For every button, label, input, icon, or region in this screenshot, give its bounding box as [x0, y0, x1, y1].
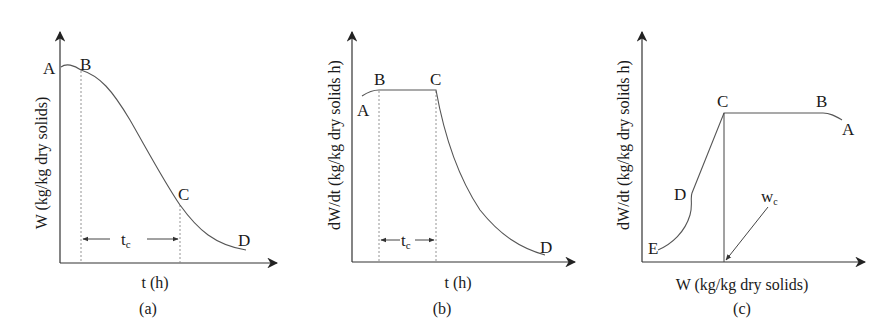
point-label-a-b: A [357, 101, 370, 120]
point-label-d-a: D [238, 231, 250, 250]
x-axis-label-b: t (h) [444, 274, 471, 292]
point-label-a-c: A [842, 120, 855, 139]
panel-b: tc A B C D dW/dt (kg/kg dry solids h) t … [326, 32, 575, 318]
y-axis-label-a: W (kg/kg dry solids) [33, 97, 51, 230]
caption-c: (c) [733, 300, 751, 318]
point-label-b-c: B [816, 92, 827, 111]
panel-c: wc C B A D E dW/dt (kg/kg dry solids h) … [615, 32, 865, 318]
moisture-curve-a [61, 65, 246, 250]
tc-label-a: tc [121, 230, 131, 250]
drying-curves-figure: tc A B C D W (kg/kg dry solids) t (h) (a… [0, 0, 894, 335]
wc-label-c: wc [761, 187, 778, 207]
x-axis-label-a: t (h) [141, 274, 168, 292]
point-label-c-b: C [430, 70, 441, 89]
point-label-a-a: A [43, 59, 56, 78]
point-label-b-a: B [80, 55, 91, 74]
y-axis-label-c: dW/dt (kg/kg dry solids h) [615, 60, 633, 230]
panel-a: tc A B C D W (kg/kg dry solids) t (h) (a… [33, 32, 277, 318]
x-axis-label-c: W (kg/kg dry solids) [676, 276, 809, 294]
y-axis-label-b: dW/dt (kg/kg dry solids h) [326, 60, 344, 230]
wc-pointer-arrow [726, 207, 768, 260]
tc-label-b: tc [401, 231, 411, 251]
point-label-c-a: C [178, 185, 189, 204]
caption-a: (a) [139, 300, 157, 318]
rate-curve-b [362, 90, 545, 255]
point-label-e-c: E [648, 239, 658, 258]
point-label-c-c: C [717, 92, 728, 111]
point-label-d-c: D [674, 185, 686, 204]
point-label-b-b: B [374, 70, 385, 89]
point-label-d-b: D [540, 238, 552, 257]
caption-b: (b) [433, 300, 452, 318]
